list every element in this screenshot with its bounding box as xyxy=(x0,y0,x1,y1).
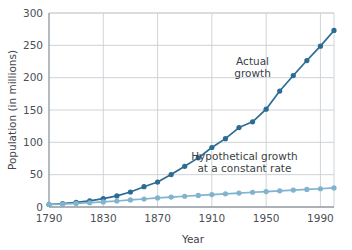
data-point-marker xyxy=(74,201,79,206)
data-point-marker xyxy=(223,136,228,141)
x-tick-label: 1910 xyxy=(198,212,225,224)
y-axis-title: Population (in millions) xyxy=(6,50,18,170)
y-tick-label: 100 xyxy=(23,136,43,148)
x-tick-label: 1950 xyxy=(253,212,280,224)
data-point-marker xyxy=(128,197,133,202)
data-point-marker xyxy=(304,187,309,192)
data-point-marker xyxy=(250,190,255,195)
data-point-marker xyxy=(141,184,146,189)
data-point-marker xyxy=(304,58,309,63)
data-point-marker xyxy=(101,199,106,204)
data-point-marker xyxy=(277,188,282,193)
x-tick-label: 1990 xyxy=(307,212,334,224)
x-tick-label: 1870 xyxy=(144,212,171,224)
data-point-marker xyxy=(46,202,51,207)
data-point-marker xyxy=(114,193,119,198)
y-tick-label: 0 xyxy=(36,201,43,213)
data-point-marker xyxy=(196,193,201,198)
annotation-line: Actual xyxy=(236,55,269,67)
data-point-marker xyxy=(182,164,187,169)
data-point-marker xyxy=(182,194,187,199)
data-point-marker xyxy=(250,119,255,124)
annotation-line: Hypothetical growth xyxy=(191,150,297,162)
y-tick-label: 50 xyxy=(30,168,43,180)
data-point-marker xyxy=(223,191,228,196)
data-point-marker xyxy=(114,198,119,203)
y-tick-label: 200 xyxy=(23,71,43,83)
data-point-marker xyxy=(169,172,174,177)
x-tick-label: 1830 xyxy=(90,212,117,224)
data-point-marker xyxy=(169,195,174,200)
data-point-marker xyxy=(318,186,323,191)
data-point-marker xyxy=(209,145,214,150)
annotation-line: at a constant rate xyxy=(197,162,291,174)
data-point-marker xyxy=(209,192,214,197)
data-point-marker xyxy=(236,125,241,130)
actual-growth-label: Actualgrowth xyxy=(234,55,271,79)
y-tick-label: 250 xyxy=(23,39,43,51)
data-point-marker xyxy=(264,107,269,112)
data-point-marker xyxy=(60,201,65,206)
data-point-marker xyxy=(87,200,92,205)
hypothetical-growth-label: Hypothetical growthat a constant rate xyxy=(191,150,297,174)
data-point-marker xyxy=(291,73,296,78)
population-growth-chart: 050100150200250300 179018301870191019501… xyxy=(0,0,352,250)
data-point-marker xyxy=(236,190,241,195)
y-tick-label: 150 xyxy=(23,104,43,116)
data-point-marker xyxy=(264,189,269,194)
x-tick-label: 1790 xyxy=(36,212,63,224)
chart-canvas: 050100150200250300 179018301870191019501… xyxy=(0,0,352,250)
annotation-line: growth xyxy=(234,67,271,79)
x-axis-title: Year xyxy=(181,233,205,245)
data-point-marker xyxy=(277,88,282,93)
data-point-marker xyxy=(318,44,323,49)
data-point-marker xyxy=(141,196,146,201)
data-point-marker xyxy=(155,179,160,184)
data-point-marker xyxy=(331,185,336,190)
data-point-marker xyxy=(155,195,160,200)
data-point-marker xyxy=(331,28,336,33)
data-point-marker xyxy=(128,189,133,194)
data-point-marker xyxy=(291,188,296,193)
y-tick-label: 300 xyxy=(23,7,43,19)
